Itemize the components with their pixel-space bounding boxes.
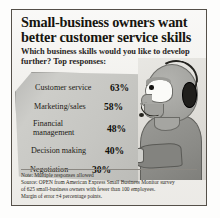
response-row: Financial management 48% — [33, 119, 74, 137]
response-label: Financial management — [33, 119, 74, 137]
response-row: Decision making 40% — [31, 146, 86, 155]
figure-eye — [149, 85, 154, 90]
footnote-margin-of-error: Margin of error ±4 percentage points. — [21, 193, 197, 199]
response-label-line1: Financial — [33, 119, 63, 128]
headset-mic-tip-icon — [139, 113, 144, 117]
response-value: 63% — [110, 82, 129, 93]
figure-hand — [138, 148, 144, 163]
response-row: Marketing/sales 58% — [34, 102, 86, 111]
figure-arm — [138, 142, 183, 169]
footnote-divider — [21, 169, 197, 170]
response-row: Customer service 63% — [35, 83, 91, 92]
footnotes: Note: Multiple responses allowed Source:… — [21, 172, 197, 199]
response-label: Decision making — [31, 146, 86, 155]
footnote-source-line2: of 625 small-business owners with fewer … — [21, 186, 197, 192]
response-value: 48% — [107, 123, 126, 134]
footnote-source-line1: Source: OPEN from American Express Small… — [21, 179, 197, 185]
response-value: 40% — [105, 145, 124, 156]
response-label: Marketing/sales — [34, 102, 86, 111]
response-label: Customer service — [35, 83, 91, 92]
data-panel-background: Customer service 63% Marketing/sales 58%… — [15, 72, 143, 182]
footnote-note: Note: Multiple responses allowed — [21, 172, 197, 178]
response-value: 58% — [104, 101, 123, 112]
response-rows: Customer service 63% Marketing/sales 58%… — [15, 72, 143, 182]
headset-operator-illustration — [138, 58, 207, 180]
headset-earcup-icon — [182, 82, 197, 108]
response-label-line2: management — [33, 128, 74, 137]
chart-frame: Small-business owners want better custom… — [11, 9, 207, 206]
infographic-chart: Small-business owners want better custom… — [0, 0, 220, 218]
chart-headline: Small-business owners want better custom… — [21, 15, 199, 45]
